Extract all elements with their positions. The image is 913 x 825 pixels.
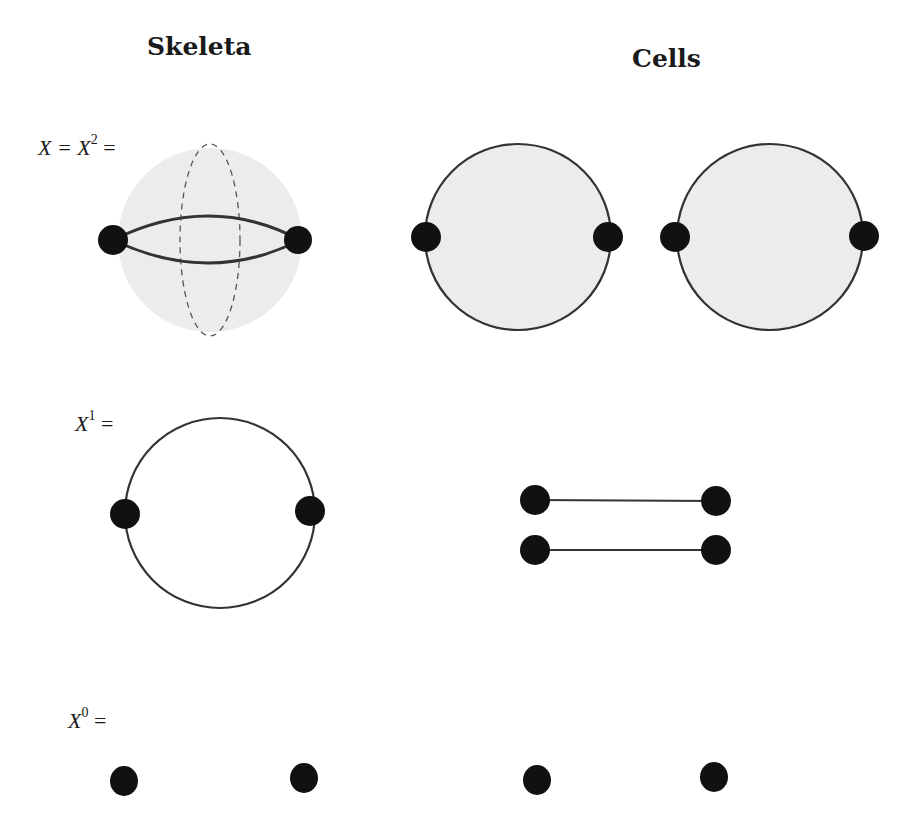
point-2 — [290, 763, 318, 793]
vertex-right — [284, 226, 312, 254]
disk-1-vertex-left — [411, 222, 441, 252]
disk-2-vertex-left — [660, 222, 690, 252]
one-cells — [520, 485, 731, 565]
disk-2-vertex-right — [849, 221, 879, 251]
vertex-left — [98, 225, 128, 255]
two-cell-1 — [411, 144, 623, 330]
circle-skeleton — [110, 418, 325, 608]
sphere-fill — [118, 148, 302, 332]
interval-2-start — [520, 535, 550, 565]
interval-1-start — [520, 485, 550, 515]
zero-cells — [523, 762, 728, 795]
points-skeleton — [110, 763, 318, 796]
disk-1 — [425, 144, 611, 330]
circle-vertex-left — [110, 499, 140, 529]
two-cell-2 — [660, 144, 879, 330]
disk-1-vertex-right — [593, 222, 623, 252]
disk-2 — [677, 144, 863, 330]
zero-cell-1 — [523, 765, 551, 795]
circle-vertex-right — [295, 496, 325, 526]
cw-complex-diagram — [0, 0, 913, 825]
sphere-skeleton — [98, 144, 312, 336]
point-1 — [110, 766, 138, 796]
interval-1-end — [701, 486, 731, 516]
zero-cell-2 — [700, 762, 728, 792]
interval-1 — [535, 500, 716, 501]
circle — [125, 418, 315, 608]
interval-2-end — [701, 535, 731, 565]
